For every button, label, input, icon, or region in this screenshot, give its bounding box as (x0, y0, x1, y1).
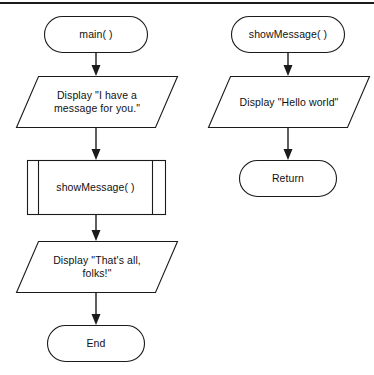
arrowhead-subroutine-to-display2 (92, 230, 101, 241)
arrowhead-display1-to-subroutine (92, 149, 101, 160)
shape-io-display-hello-world (209, 77, 370, 128)
shape-io-display-thats-all-folks (17, 242, 178, 293)
arrowhead-display2-to-end (92, 314, 101, 325)
shape-terminal-show-message-return (240, 161, 337, 197)
flowchart-graphics (0, 0, 374, 375)
arrowhead-main-start-to-display1 (92, 65, 101, 76)
arrowhead-hello-to-return (284, 149, 293, 160)
shape-terminal-main-start (45, 17, 148, 53)
shape-terminal-main-end (48, 326, 145, 362)
shape-subroutine-call-show-message (28, 161, 166, 215)
shape-terminal-show-message-start (232, 17, 345, 53)
shape-io-display-i-have-a-message (17, 77, 178, 128)
flowchart-canvas: main( ) Display "I have a message for yo… (0, 0, 374, 375)
arrowhead-show-message-start-to-hello (284, 65, 293, 76)
